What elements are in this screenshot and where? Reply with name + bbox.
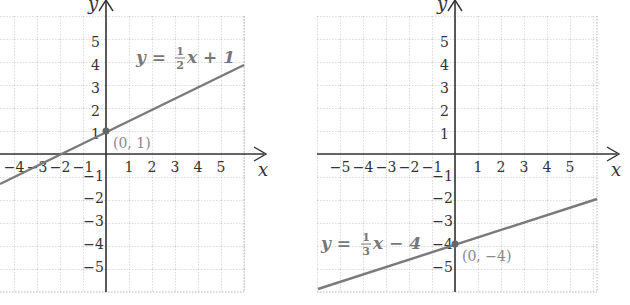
point-0-1 [103,128,110,135]
svg-text:−1: −1 [422,159,443,175]
svg-text:2: 2 [497,159,506,175]
svg-text:3: 3 [91,80,100,96]
svg-text:x − 4: x − 4 [372,233,421,253]
svg-text:−3: −3 [376,159,397,175]
svg-text:4: 4 [194,159,203,175]
svg-text:1: 1 [474,159,483,175]
svg-text:1: 1 [176,45,184,58]
svg-text:4: 4 [543,159,552,175]
graphs-canvas: y x 5 4 3 2 1 −1 −2 −3 −4 −5 −4 −3 −2 −1… [0,0,630,305]
svg-text:−4: −4 [83,236,104,252]
svg-text:4: 4 [440,57,449,73]
svg-text:2: 2 [176,59,184,72]
svg-text:5: 5 [91,34,100,50]
svg-text:−3: −3 [432,213,453,229]
svg-text:3: 3 [520,159,529,175]
point-0-neg4 [452,241,459,248]
svg-text:−5: −5 [83,259,104,275]
svg-text:2: 2 [148,159,157,175]
svg-text:1: 1 [362,231,370,244]
svg-text:3: 3 [171,159,180,175]
point-label-right: (0, −4) [462,248,511,264]
y-axis-label: y [436,0,448,14]
graph-left: y x 5 4 3 2 1 −1 −2 −3 −4 −5 −4 −3 −2 −1… [0,0,268,292]
svg-text:−1: −1 [73,159,94,175]
svg-text:2: 2 [91,103,100,119]
svg-text:−2: −2 [432,190,453,206]
svg-text:−2: −2 [83,190,104,206]
svg-text:2: 2 [440,103,449,119]
svg-text:4: 4 [91,57,100,73]
svg-text:3: 3 [362,245,370,258]
svg-text:−5: −5 [432,259,453,275]
svg-text:3: 3 [440,80,449,96]
svg-text:y =: y = [320,233,351,253]
x-axis-label: x [258,159,268,180]
svg-text:5: 5 [440,34,449,50]
svg-text:1: 1 [440,126,449,142]
svg-text:−3: −3 [83,213,104,229]
point-label-left: (0, 1) [113,135,151,151]
x-axis-label: x [611,159,621,180]
y-axis-label: y [87,0,99,14]
svg-text:1: 1 [125,159,134,175]
svg-text:5: 5 [217,159,226,175]
svg-text:x + 1: x + 1 [186,47,235,67]
svg-text:y =: y = [135,47,166,67]
svg-text:−2: −2 [399,159,420,175]
svg-text:−2: −2 [50,159,71,175]
svg-text:−5: −5 [330,159,351,175]
svg-text:5: 5 [566,159,575,175]
graph-right: y x 5 4 3 2 1 −1 −2 −3 −4 −5 −5 −4 −3 −2… [317,0,621,292]
svg-text:−4: −4 [353,159,374,175]
